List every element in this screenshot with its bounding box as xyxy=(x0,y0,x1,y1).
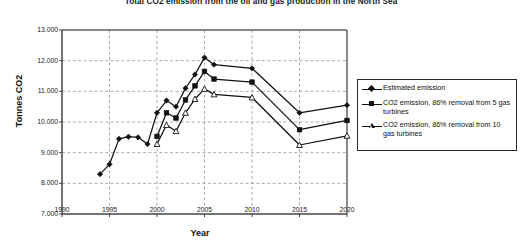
data-point-marker xyxy=(164,111,169,116)
data-point-marker xyxy=(155,134,160,139)
chart-legend: Estimated emission CO2 emission, 86% rem… xyxy=(357,79,517,151)
data-point-marker xyxy=(173,128,179,133)
legend-item-10-gas-turbines: CO2 emission, 86% removal from 10 gas tu… xyxy=(361,121,513,138)
data-point-marker xyxy=(193,84,198,89)
data-point-marker xyxy=(202,69,207,74)
data-point-marker xyxy=(345,118,350,123)
data-point-marker xyxy=(116,136,121,141)
chart-figure: Total CO2 emission from the oil and gas … xyxy=(0,0,522,245)
series-line xyxy=(100,58,347,175)
legend-marker-filled-diamond-icon xyxy=(361,85,383,94)
legend-label: CO2 emission, 86% removal from 5 gas tur… xyxy=(383,99,513,116)
data-point-marker xyxy=(164,122,170,127)
data-point-marker xyxy=(202,86,208,91)
data-point-marker xyxy=(250,80,255,85)
data-point-marker xyxy=(174,116,179,121)
data-point-marker xyxy=(297,127,302,132)
legend-marker-open-triangle-icon xyxy=(361,122,383,131)
legend-label: CO2 emission, 86% removal from 10 gas tu… xyxy=(383,121,513,138)
data-point-marker xyxy=(344,102,349,107)
data-point-marker xyxy=(183,98,188,103)
legend-item-5-gas-turbines: CO2 emission, 86% removal from 5 gas tur… xyxy=(361,99,513,116)
data-point-marker xyxy=(212,77,217,82)
legend-item-estimated-emission: Estimated emission xyxy=(361,84,513,94)
legend-label: Estimated emission xyxy=(383,84,445,93)
legend-marker-filled-square-icon xyxy=(361,100,383,109)
data-point-marker xyxy=(126,134,131,139)
data-point-marker xyxy=(154,141,160,146)
